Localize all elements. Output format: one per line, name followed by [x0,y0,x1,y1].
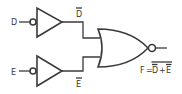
output-term-d: D [152,66,158,75]
output-lhs: F [140,66,145,75]
d-bar-label: D [76,10,82,19]
output-expression: F = D + E [140,62,172,75]
wire-d-bar [62,22,100,38]
nor-bubble-icon [149,45,156,52]
output-plus: + [159,66,166,75]
input-label-d: D [11,18,17,27]
e-bar-label: E [76,80,81,89]
nor-gate-icon [98,29,148,67]
inverter-triangle-e-icon [37,56,62,86]
input-label-e: E [11,68,16,77]
inverter-bubble-d-icon [30,19,36,25]
logic-circuit-diagram: D D E E F = D + E [0,0,182,94]
wire-e-bar [62,57,100,71]
inverter-bubble-e-icon [30,68,36,74]
output-term-e: E [166,66,171,75]
inverter-triangle-d-icon [37,8,62,37]
